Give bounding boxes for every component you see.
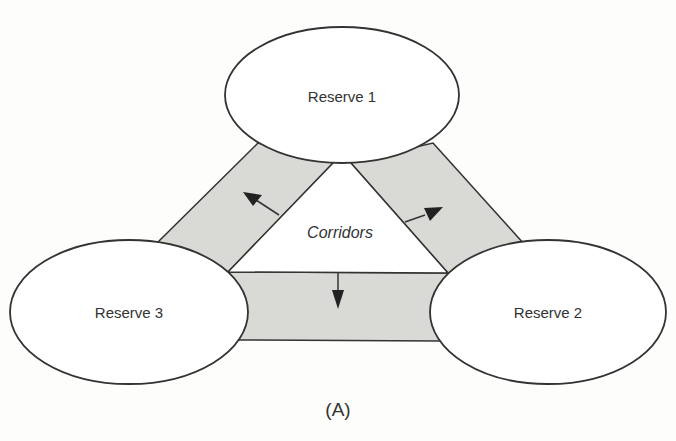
reserve-corridor-diagram bbox=[0, 0, 676, 441]
corridors-label: Corridors bbox=[307, 224, 373, 242]
figure-caption: (A) bbox=[325, 399, 350, 421]
reserve-3-label: Reserve 3 bbox=[95, 304, 163, 321]
reserve-1-label: Reserve 1 bbox=[308, 88, 376, 105]
reserve-2-label: Reserve 2 bbox=[514, 304, 582, 321]
